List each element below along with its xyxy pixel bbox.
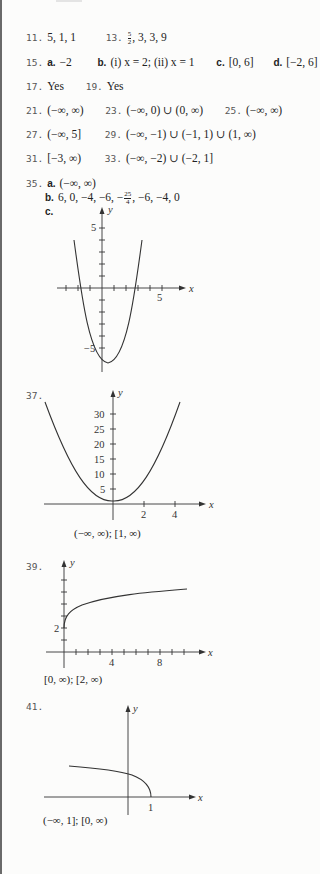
svg-text:1: 1 <box>148 802 153 813</box>
svg-text:x: x <box>197 792 203 803</box>
answer-41-caption: (−∞, 1]; [0, ∞) <box>43 813 107 827</box>
graph-41: y x 1 <box>0 0 320 874</box>
svg-text:y: y <box>132 703 138 714</box>
